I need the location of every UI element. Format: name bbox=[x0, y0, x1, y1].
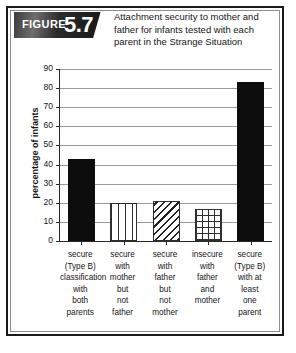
x-axis-category-label-line: but bbox=[145, 284, 185, 296]
y-axis-tick-mark bbox=[56, 107, 60, 108]
x-axis-category-label-line: (Type B) bbox=[230, 261, 270, 273]
x-axis-category-label-line: one bbox=[230, 295, 270, 307]
x-axis-category-label: securewithmotherbutnotfather bbox=[102, 249, 142, 319]
x-axis-category-label-line: secure bbox=[102, 249, 142, 261]
y-axis-tick-mark bbox=[56, 222, 60, 223]
plot-area: 0102030405060708090 bbox=[59, 69, 272, 242]
x-axis-category-label: securewithfatherbutnotmother bbox=[145, 249, 185, 319]
y-axis-tick-mark bbox=[56, 88, 60, 89]
bar bbox=[153, 201, 180, 241]
x-axis-category-label: secure(Type B)with atleastoneparent bbox=[230, 249, 270, 319]
y-axis-tick-label: 40 bbox=[44, 159, 53, 169]
x-axis-category-label-line: with bbox=[60, 284, 100, 296]
x-axis-category-label-line: both bbox=[60, 295, 100, 307]
x-axis-category-label-line: not bbox=[145, 295, 185, 307]
x-axis-category-label-line: secure bbox=[230, 249, 270, 261]
y-axis-tick-label: 10 bbox=[44, 216, 53, 226]
x-axis-category-label-line: (Type B) bbox=[60, 261, 100, 273]
y-axis-tick-label: 90 bbox=[44, 63, 53, 73]
chart-area: percentage of infants 010203040506070809… bbox=[8, 56, 286, 336]
figure-frame: FIGURE 5.7 Attachment security to mother… bbox=[6, 6, 284, 336]
x-axis-category-label-line: father bbox=[145, 272, 185, 284]
x-axis-tick-mark bbox=[166, 241, 167, 245]
y-axis-tick-label: 70 bbox=[44, 101, 53, 111]
x-axis-tick-mark bbox=[208, 241, 209, 245]
bar bbox=[195, 209, 222, 241]
gridline bbox=[60, 69, 272, 70]
x-axis-category-label-line: mother bbox=[102, 272, 142, 284]
x-axis-category-label-line: least bbox=[230, 284, 270, 296]
x-axis-category-label-line: with bbox=[187, 261, 227, 273]
y-axis-tick-label: 80 bbox=[44, 82, 53, 92]
x-axis-category-label: insecurewithfatherandmother bbox=[187, 249, 227, 307]
figure-title: Attachment security to mother and father… bbox=[114, 11, 278, 49]
x-axis-category-label-line: parents bbox=[60, 307, 100, 319]
x-axis-category-label-line: not bbox=[102, 295, 142, 307]
bar bbox=[68, 159, 95, 241]
x-axis-category-label-line: and bbox=[187, 284, 227, 296]
x-axis-category-label-line: secure bbox=[145, 249, 185, 261]
y-axis-tick-mark bbox=[56, 241, 60, 242]
bar bbox=[110, 203, 137, 241]
x-axis-category-label-line: secure bbox=[60, 249, 100, 261]
y-axis-tick-mark bbox=[56, 126, 60, 127]
figure-header: FIGURE 5.7 Attachment security to mother… bbox=[8, 8, 286, 56]
x-axis-tick-mark bbox=[81, 241, 82, 245]
y-axis-tick-mark bbox=[56, 165, 60, 166]
y-axis-tick-mark bbox=[56, 184, 60, 185]
x-axis-category-label-line: mother bbox=[187, 295, 227, 307]
x-axis-tick-mark bbox=[251, 241, 252, 245]
x-axis-category-label-line: classification bbox=[60, 272, 100, 284]
x-axis-category-label-line: with at bbox=[230, 272, 270, 284]
x-axis-tick-mark bbox=[124, 241, 125, 245]
y-axis-tick-label: 0 bbox=[48, 235, 53, 245]
y-axis-tick-label: 30 bbox=[44, 178, 53, 188]
x-axis-labels: secure(Type B)classificationwithbothpare… bbox=[59, 249, 271, 335]
figure-number-badge: FIGURE 5.7 bbox=[14, 12, 110, 38]
x-axis-category-label-line: insecure bbox=[187, 249, 227, 261]
badge-figure-number: 5.7 bbox=[64, 12, 93, 38]
x-axis-category-label-line: but bbox=[102, 284, 142, 296]
y-axis-title: percentage of infants bbox=[30, 88, 40, 218]
y-axis-tick-label: 20 bbox=[44, 197, 53, 207]
x-axis-category-label-line: with bbox=[102, 261, 142, 273]
x-axis-category-label-line: with bbox=[145, 261, 185, 273]
badge-figure-word: FIGURE bbox=[22, 18, 66, 30]
y-axis-tick-mark bbox=[56, 203, 60, 204]
x-axis-category-label-line: parent bbox=[230, 307, 270, 319]
bar bbox=[237, 82, 264, 241]
y-axis-tick-label: 60 bbox=[44, 120, 53, 130]
y-axis-tick-mark bbox=[56, 145, 60, 146]
x-axis-category-label-line: mother bbox=[145, 307, 185, 319]
x-axis-category-label-line: father bbox=[187, 272, 227, 284]
x-axis-category-label-line: father bbox=[102, 307, 142, 319]
x-axis-category-label: secure(Type B)classificationwithbothpare… bbox=[60, 249, 100, 319]
y-axis-tick-mark bbox=[56, 69, 60, 70]
y-axis-tick-label: 50 bbox=[44, 139, 53, 149]
